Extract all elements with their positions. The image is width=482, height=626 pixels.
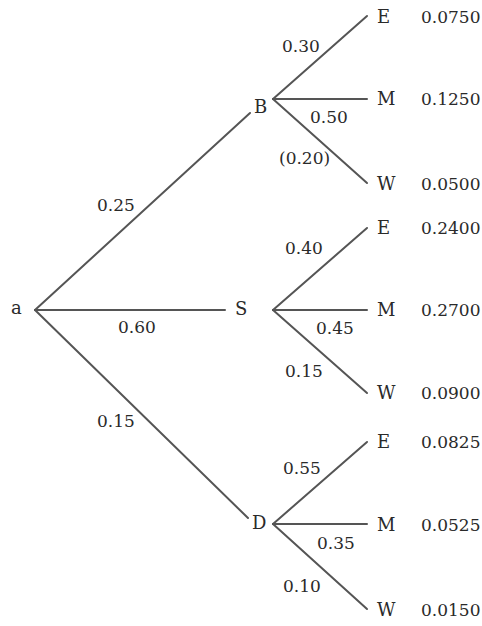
joint-d-m: 0.0525 xyxy=(421,517,480,534)
prob-b-m: 0.50 xyxy=(310,109,348,126)
root-node-a: a xyxy=(11,299,22,317)
edge-a-b xyxy=(35,113,250,310)
joint-d-w: 0.0150 xyxy=(421,602,480,619)
prob-b-w: (0.20) xyxy=(279,150,330,167)
prob-a-b: 0.25 xyxy=(97,197,135,214)
leaf-s-e: E xyxy=(377,219,390,237)
prob-s-w: 0.15 xyxy=(285,363,323,380)
prob-d-m: 0.35 xyxy=(317,535,355,552)
prob-d-w: 0.10 xyxy=(283,578,321,595)
node-d: D xyxy=(252,514,266,532)
joint-d-e: 0.0825 xyxy=(421,434,480,451)
node-b: B xyxy=(254,98,267,116)
leaf-d-e: E xyxy=(377,433,390,451)
prob-s-m: 0.45 xyxy=(316,320,354,337)
leaf-b-w: W xyxy=(377,175,396,193)
leaf-b-m: M xyxy=(377,90,395,108)
prob-d-e: 0.55 xyxy=(283,460,321,477)
node-s: S xyxy=(235,300,247,318)
joint-s-e: 0.2400 xyxy=(421,220,480,237)
edge-d-e xyxy=(273,442,367,524)
prob-b-e: 0.30 xyxy=(282,38,320,55)
leaf-s-w: W xyxy=(377,384,396,402)
prob-a-s: 0.60 xyxy=(118,319,156,336)
joint-b-w: 0.0500 xyxy=(421,176,480,193)
leaf-d-w: W xyxy=(377,601,396,619)
joint-s-m: 0.2700 xyxy=(421,302,480,319)
leaf-s-m: M xyxy=(377,301,395,319)
joint-b-m: 0.1250 xyxy=(421,91,480,108)
leaf-d-m: M xyxy=(377,516,395,534)
joint-s-w: 0.0900 xyxy=(421,385,480,402)
leaf-b-e: E xyxy=(377,8,390,26)
edge-a-d xyxy=(35,310,248,518)
prob-s-e: 0.40 xyxy=(285,240,323,257)
edge-b-e xyxy=(273,16,367,99)
joint-b-e: 0.0750 xyxy=(421,9,480,26)
prob-a-d: 0.15 xyxy=(97,413,135,430)
